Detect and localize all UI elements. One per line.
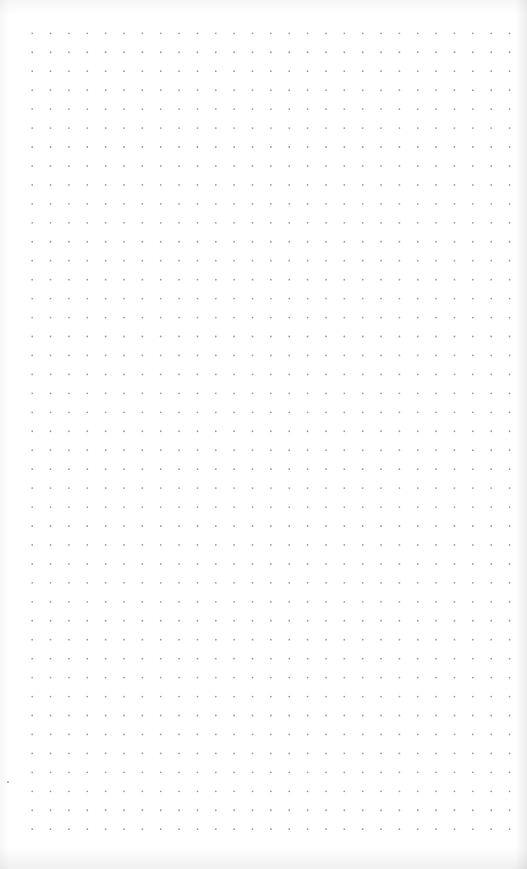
grid-dot xyxy=(233,696,235,698)
grid-dot xyxy=(509,544,511,546)
grid-dot xyxy=(31,51,33,53)
grid-dot xyxy=(160,658,162,660)
grid-dot xyxy=(362,677,364,679)
grid-dot xyxy=(141,696,143,698)
grid-dot xyxy=(270,374,272,376)
grid-dot xyxy=(343,601,345,603)
grid-dot xyxy=(270,260,272,262)
grid-dot xyxy=(288,127,290,129)
grid-dot xyxy=(68,108,70,110)
grid-dot xyxy=(252,525,254,527)
grid-dot xyxy=(490,639,492,641)
grid-dot xyxy=(325,639,327,641)
grid-dot xyxy=(435,336,437,338)
grid-dot xyxy=(105,51,107,53)
grid-dot xyxy=(435,734,437,736)
grid-dot xyxy=(141,601,143,603)
grid-dot xyxy=(380,127,382,129)
grid-dot xyxy=(435,753,437,755)
grid-dot xyxy=(325,487,327,489)
grid-dot xyxy=(233,70,235,72)
grid-dot xyxy=(380,677,382,679)
grid-dot xyxy=(123,51,125,53)
grid-dot xyxy=(86,658,88,660)
grid-dot xyxy=(215,753,217,755)
grid-dot xyxy=(288,222,290,224)
grid-dot xyxy=(399,828,401,830)
grid-dot xyxy=(270,620,272,622)
grid-dot xyxy=(380,809,382,811)
grid-dot xyxy=(123,809,125,811)
grid-dot xyxy=(252,317,254,319)
grid-dot xyxy=(123,828,125,830)
grid-dot xyxy=(472,279,474,281)
grid-dot xyxy=(233,298,235,300)
grid-dot xyxy=(454,620,456,622)
grid-dot xyxy=(197,279,199,281)
grid-dot xyxy=(509,506,511,508)
grid-dot xyxy=(123,70,125,72)
grid-dot xyxy=(252,544,254,546)
grid-dot xyxy=(380,828,382,830)
grid-dot xyxy=(380,203,382,205)
grid-dot xyxy=(178,715,180,717)
grid-dot xyxy=(123,430,125,432)
grid-dot xyxy=(435,809,437,811)
grid-dot xyxy=(417,279,419,281)
grid-dot xyxy=(141,32,143,34)
grid-dot xyxy=(86,734,88,736)
grid-dot xyxy=(325,298,327,300)
grid-dot xyxy=(454,449,456,451)
grid-dot xyxy=(454,222,456,224)
grid-dot xyxy=(68,658,70,660)
grid-dot xyxy=(233,544,235,546)
grid-dot xyxy=(509,639,511,641)
grid-dot xyxy=(417,449,419,451)
grid-dot xyxy=(490,449,492,451)
grid-dot xyxy=(343,658,345,660)
grid-dot xyxy=(86,525,88,527)
grid-dot xyxy=(362,639,364,641)
grid-dot xyxy=(270,51,272,53)
grid-dot xyxy=(270,165,272,167)
grid-dot xyxy=(307,639,309,641)
grid-dot xyxy=(454,487,456,489)
grid-dot xyxy=(68,677,70,679)
grid-dot xyxy=(307,70,309,72)
grid-dot xyxy=(215,790,217,792)
grid-dot xyxy=(178,184,180,186)
grid-dot xyxy=(417,222,419,224)
grid-dot xyxy=(141,715,143,717)
grid-dot xyxy=(325,165,327,167)
grid-dot xyxy=(252,165,254,167)
grid-dot xyxy=(472,411,474,413)
grid-dot xyxy=(270,108,272,110)
grid-dot xyxy=(435,544,437,546)
grid-dot xyxy=(454,32,456,34)
grid-dot xyxy=(509,525,511,527)
grid-dot xyxy=(68,582,70,584)
grid-dot xyxy=(380,544,382,546)
grid-dot xyxy=(50,525,52,527)
grid-dot xyxy=(399,487,401,489)
grid-dot xyxy=(123,298,125,300)
grid-dot xyxy=(197,544,199,546)
grid-dot xyxy=(270,601,272,603)
grid-dot xyxy=(178,89,180,91)
grid-dot xyxy=(472,222,474,224)
grid-dot xyxy=(325,411,327,413)
grid-dot xyxy=(141,487,143,489)
grid-dot xyxy=(307,108,309,110)
grid-dot xyxy=(454,374,456,376)
grid-dot xyxy=(490,70,492,72)
grid-dot xyxy=(343,525,345,527)
grid-dot xyxy=(490,468,492,470)
grid-dot xyxy=(105,203,107,205)
grid-dot xyxy=(215,696,217,698)
grid-dot xyxy=(325,677,327,679)
grid-dot xyxy=(105,449,107,451)
grid-dot xyxy=(233,127,235,129)
grid-dot xyxy=(86,298,88,300)
grid-dot xyxy=(252,32,254,34)
grid-dot xyxy=(141,658,143,660)
